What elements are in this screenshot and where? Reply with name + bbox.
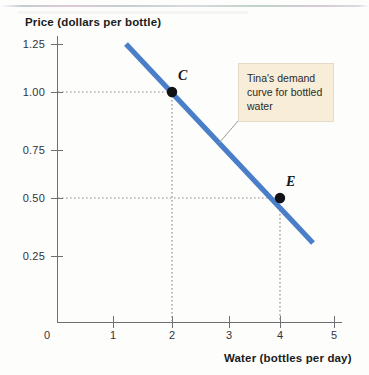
data-point-e-label: E [286, 174, 295, 190]
demand-curve-callout: Tina's demand curve for bottled water [238, 63, 334, 122]
callout-leader-line [219, 121, 238, 143]
plot-area [0, 0, 369, 375]
chart-figure: Price (dollars per bottle) 1.25 1.00 0.7… [0, 0, 369, 375]
data-point-c [167, 87, 177, 97]
data-point-e [275, 193, 285, 203]
data-point-c-label: C [178, 68, 187, 84]
